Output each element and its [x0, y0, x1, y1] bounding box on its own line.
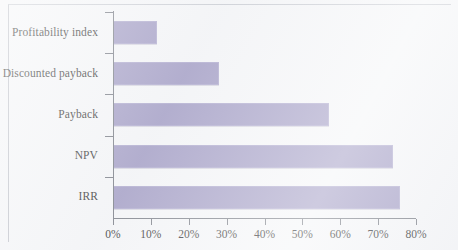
x-axis-tick [340, 219, 341, 225]
y-axis-tick [105, 177, 114, 178]
bar-group [113, 177, 412, 218]
x-axis-tick [416, 219, 417, 225]
x-axis-tick [302, 219, 303, 225]
x-axis-tick [189, 219, 190, 225]
bar [113, 186, 400, 209]
plot-area [113, 12, 412, 218]
x-axis-tick [113, 219, 114, 225]
y-axis-label: IRR [0, 191, 105, 203]
y-axis-label: Payback [0, 109, 105, 121]
x-axis-tick-label: 80% [405, 229, 426, 241]
bar [113, 103, 329, 126]
y-axis-label: NPV [0, 150, 105, 162]
x-axis-tick-label: 50% [292, 229, 313, 241]
x-axis-tick [265, 219, 266, 225]
y-axis-label: Discounted payback [0, 68, 105, 80]
y-axis-line [113, 11, 114, 219]
bar [113, 62, 219, 85]
x-axis-tick-label: 40% [254, 229, 275, 241]
bar-group [113, 12, 412, 53]
bar [113, 145, 393, 168]
x-axis-tick [378, 219, 379, 225]
x-axis-tick [151, 219, 152, 225]
bar-group [113, 136, 412, 177]
x-axis-tick-label: 10% [140, 229, 161, 241]
x-axis-tick-label: 0% [105, 229, 120, 241]
x-axis-tick-label: 30% [216, 229, 237, 241]
bar-group [113, 94, 412, 135]
bar [113, 21, 157, 44]
y-axis-tick [105, 94, 114, 95]
x-axis-tick-label: 60% [330, 229, 351, 241]
x-axis-tick [227, 219, 228, 225]
y-axis-tick [105, 53, 114, 54]
y-axis-label: Profitability index [0, 27, 105, 39]
bar-chart-figure: IRRNPVPaybackDiscounted paybackProfitabi… [0, 0, 458, 250]
bar-group [113, 53, 412, 94]
y-axis-tick [105, 12, 114, 13]
x-axis-tick-label: 70% [368, 229, 389, 241]
x-axis-tick-label: 20% [178, 229, 199, 241]
y-axis-tick [105, 136, 114, 137]
